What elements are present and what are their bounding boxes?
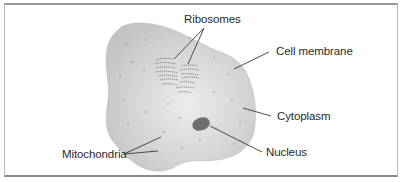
label-mitochondria: Mitochondria xyxy=(62,148,127,160)
cell-membrane-leader xyxy=(234,52,269,69)
label-cell-membrane: Cell membrane xyxy=(276,45,353,57)
label-cytoplasm: Cytoplasm xyxy=(277,110,330,122)
label-nucleus: Nucleus xyxy=(266,146,307,158)
label-ribosomes: Ribosomes xyxy=(184,13,241,25)
cell-membrane-shape xyxy=(106,23,256,171)
cell-diagram xyxy=(0,0,402,182)
